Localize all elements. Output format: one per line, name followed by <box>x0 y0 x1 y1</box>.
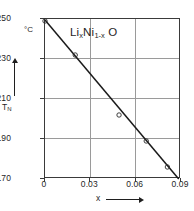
y-axis-unit: °C <box>24 26 33 34</box>
formula-sub-1-x: 1-x <box>94 31 104 40</box>
y-tick-label-170: 170 <box>0 174 11 183</box>
y-tick-label-230: 230 <box>0 54 11 63</box>
trend-line <box>45 20 179 179</box>
y-tick-label-190: 190 <box>0 134 11 143</box>
x-axis-title: x <box>96 194 100 203</box>
plot-area <box>44 18 180 178</box>
y-tick-label-250: 250 <box>0 14 11 23</box>
compound-formula-annotation: LixNi1-x O <box>70 26 117 42</box>
y-axis-title-subscript: N <box>7 106 11 112</box>
y-tick-label-210: 210 <box>0 94 11 103</box>
data-point <box>117 113 121 117</box>
formula-o: O <box>108 26 117 38</box>
formula-li: Li <box>70 26 79 38</box>
x-axis-arrow-icon <box>106 199 140 200</box>
data-series-plot <box>45 19 181 179</box>
y-axis-title: TN <box>2 103 12 114</box>
chart-figure: °C TN 250 230 210 190 170 0 0.03 0.06 0.… <box>0 0 194 211</box>
y-axis-arrow-icon <box>14 62 15 96</box>
formula-ni: Ni <box>83 26 94 38</box>
